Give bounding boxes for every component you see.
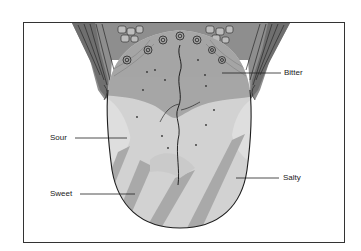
label-salty: Salty	[283, 174, 301, 182]
label-sweet: Sweet	[50, 190, 72, 198]
label-sour: Sour	[50, 134, 67, 142]
tongue-illustration	[0, 0, 361, 251]
label-bitter: Bitter	[284, 69, 303, 77]
